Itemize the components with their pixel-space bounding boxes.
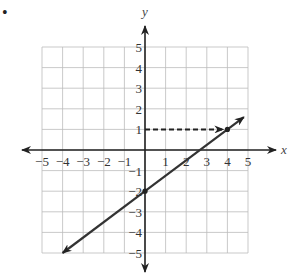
y-tick-label: −3	[128, 205, 142, 220]
y-tick-label: 5	[136, 40, 143, 55]
point-marker	[225, 127, 230, 132]
y-tick-label: −1	[128, 164, 142, 179]
y-axis-label: y	[140, 4, 148, 19]
x-tick-labels: −5−4−3−2−112345	[35, 154, 251, 169]
coordinate-plane: x y −5−4−3−2−112345 54321−1−2−3−4−5	[0, 0, 294, 274]
x-tick-label: 1	[162, 154, 169, 169]
x-tick-label: −2	[97, 154, 111, 169]
x-tick-label: −3	[76, 154, 90, 169]
y-tick-label: −5	[128, 246, 142, 261]
x-tick-label: −4	[56, 154, 70, 169]
y-tick-label: 1	[136, 122, 143, 137]
point-marker	[142, 189, 147, 194]
y-tick-label: −2	[128, 184, 142, 199]
x-tick-label: 5	[245, 154, 252, 169]
y-tick-label: 3	[136, 81, 143, 96]
x-tick-label: 4	[224, 154, 231, 169]
x-axis-label: x	[280, 142, 287, 157]
y-tick-label: −4	[128, 225, 142, 240]
x-tick-label: −5	[35, 154, 49, 169]
y-tick-label: 2	[136, 102, 143, 117]
x-tick-label: 3	[204, 154, 211, 169]
y-tick-label: 4	[136, 61, 143, 76]
